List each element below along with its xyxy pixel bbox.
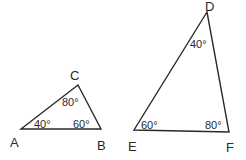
triangle-def: D E F 40° 60° 80°	[128, 0, 234, 155]
angle-label-d: 40°	[190, 38, 207, 50]
similar-triangles-diagram: A B C 40° 60° 80° D E F 40° 60° 80°	[0, 0, 246, 160]
triangle-def-outline	[134, 12, 229, 132]
vertex-label-e: E	[128, 139, 137, 154]
angle-label-b: 60°	[73, 118, 90, 130]
angle-label-f: 80°	[205, 119, 222, 131]
vertex-label-a: A	[10, 135, 19, 150]
vertex-label-d: D	[205, 0, 214, 14]
vertex-label-b: B	[97, 138, 106, 153]
angle-label-a: 40°	[34, 118, 51, 130]
vertex-label-f: F	[226, 140, 234, 155]
triangle-abc: A B C 40° 60° 80°	[10, 68, 106, 153]
angle-label-e: 60°	[141, 119, 158, 131]
vertex-label-c: C	[70, 68, 79, 83]
angle-label-c: 80°	[62, 96, 79, 108]
